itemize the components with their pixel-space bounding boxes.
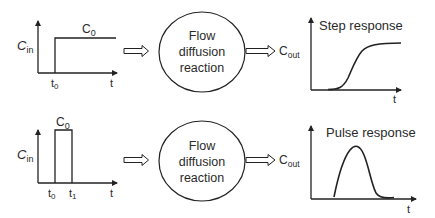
step-row: Cin C0 t0 t Flow diffusion reaction Cout…	[17, 12, 403, 105]
pulse-response-curve	[334, 146, 394, 198]
step-input-signal	[55, 38, 116, 73]
pulse-response-title: Pulse response	[326, 125, 416, 140]
c0-label: C0	[56, 115, 70, 131]
step-response-plot: Step response t	[311, 18, 403, 105]
t-axis-label: t	[110, 187, 113, 199]
pulse-input-plot: Cin C0 t0 t1 t	[17, 115, 117, 201]
t-axis-label: t	[110, 77, 113, 89]
c0-label: C0	[82, 22, 96, 38]
system-label-line3: reaction	[180, 171, 225, 185]
cin-label: Cin	[17, 147, 33, 164]
step-input-plot: Cin C0 t0 t	[17, 21, 117, 91]
system-label-line2: diffusion	[179, 155, 225, 169]
t-axis-label: t	[407, 203, 410, 215]
cin-label: Cin	[17, 38, 33, 55]
input-flow-arrow-icon	[124, 155, 149, 166]
input-flow-arrow-icon	[124, 46, 149, 57]
system-label-line1: Flow	[189, 139, 216, 153]
cout-label: Cout	[279, 153, 300, 169]
t1-label: t1	[69, 187, 77, 201]
system-label-line3: reaction	[180, 61, 225, 75]
system-label-line1: Flow	[189, 29, 216, 43]
step-system-node: Flow diffusion reaction	[159, 12, 245, 92]
cout-label: Cout	[279, 44, 300, 60]
pulse-input-signal	[55, 130, 72, 183]
pulse-response-plot: Pulse response t	[311, 125, 416, 215]
output-flow-arrow-icon	[246, 155, 275, 166]
t0-label: t0	[51, 77, 59, 91]
system-label-line2: diffusion	[179, 45, 225, 59]
step-response-title: Step response	[319, 18, 403, 33]
step-response-curve	[328, 43, 401, 90]
flow-diagram: Cin C0 t0 t Flow diffusion reaction Cout…	[0, 0, 435, 218]
pulse-row: Cin C0 t0 t1 t Flow diffusion reaction C…	[17, 115, 416, 215]
pulse-system-node: Flow diffusion reaction	[159, 121, 245, 201]
t0-label: t0	[48, 187, 56, 201]
t-axis-label: t	[393, 93, 396, 105]
output-flow-arrow-icon	[246, 46, 275, 57]
